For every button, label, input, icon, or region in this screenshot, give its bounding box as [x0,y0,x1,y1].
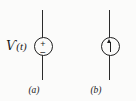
voltage-label-argument: (t) [16,40,26,52]
voltage-source-label: Ѵ(t) [6,40,27,52]
current-arrow-shaft-icon [110,42,111,52]
voltage-script-v-glyph: Ѵ [6,39,16,53]
current-arrow-head-icon [107,39,111,43]
caption-a: (a) [0,86,68,96]
caption-b: (b) [62,86,130,96]
current-source-symbol: f(t) (b) [68,0,136,101]
minus-terminal-sign: − [34,48,53,58]
voltage-source-symbol: + − Ѵ(t) (a) [0,0,68,101]
circuit-source-symbols-figure: + − Ѵ(t) (a) f(t) (b) [0,0,136,101]
